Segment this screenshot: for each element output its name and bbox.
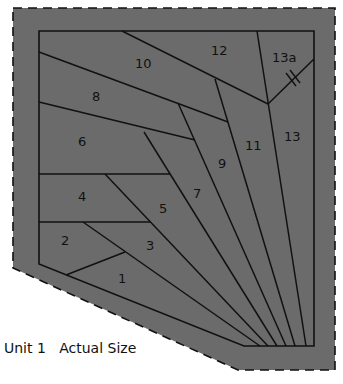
- piece-label-8: 8: [92, 89, 100, 104]
- pattern-diagram: 1 2 3 4 5 6 7 8 9 10 11 12 13 13a: [0, 0, 343, 384]
- piece-label-5: 5: [159, 201, 167, 216]
- piece-label-1: 1: [118, 271, 126, 286]
- piece-label-2: 2: [61, 233, 69, 248]
- piece-label-9: 9: [218, 156, 226, 171]
- piece-label-4: 4: [78, 189, 86, 204]
- piece-label-12: 12: [211, 43, 228, 58]
- piece-label-11: 11: [245, 138, 262, 153]
- piece-label-3: 3: [146, 238, 154, 253]
- piece-label-13: 13: [284, 129, 301, 144]
- piece-label-13a: 13a: [272, 50, 297, 65]
- piece-label-6: 6: [78, 134, 86, 149]
- caption: Unit 1 Actual Size: [4, 340, 136, 356]
- piece-label-10: 10: [135, 56, 152, 71]
- piece-label-7: 7: [193, 186, 201, 201]
